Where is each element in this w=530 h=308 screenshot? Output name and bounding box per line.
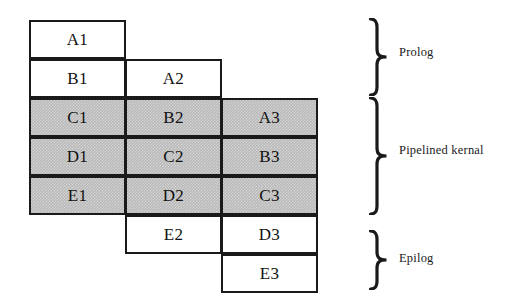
pipeline-cell-a3: A3 xyxy=(221,98,318,137)
brace-prolog-icon xyxy=(368,18,390,96)
pipeline-cell-label: E1 xyxy=(68,187,87,204)
brace-pipelined-kernal-icon xyxy=(368,97,390,215)
pipeline-cell-d1: D1 xyxy=(29,137,126,176)
pipeline-cell-label: B3 xyxy=(259,148,279,165)
pipeline-cell-label: A1 xyxy=(67,31,88,48)
pipeline-cell-e2: E2 xyxy=(125,215,222,254)
pipeline-cell-label: A2 xyxy=(163,70,184,87)
pipeline-cell-label: D2 xyxy=(163,187,184,204)
pipeline-cell-label: A3 xyxy=(259,109,280,126)
pipeline-cell-label: C3 xyxy=(259,187,279,204)
pipeline-cell-d2: D2 xyxy=(125,176,222,215)
pipeline-cell-d3: D3 xyxy=(221,215,318,254)
pipeline-cell-label: C2 xyxy=(163,148,183,165)
pipeline-cell-label: C1 xyxy=(67,109,87,126)
stage-label-prolog: Prolog xyxy=(399,45,434,60)
pipeline-cell-c3: C3 xyxy=(221,176,318,215)
pipeline-cell-b1: B1 xyxy=(29,59,126,98)
pipeline-schedule-diagram: A1B1C1D1E1A2B2C2D2E2A3B3C3D3E3PrologPipe… xyxy=(0,0,530,308)
pipeline-cell-c1: C1 xyxy=(29,98,126,137)
pipeline-cell-label: E3 xyxy=(260,265,279,282)
pipeline-cell-a1: A1 xyxy=(29,20,126,59)
stage-label-pipelined-kernal: Pipelined kernal xyxy=(399,143,484,158)
pipeline-cell-label: D3 xyxy=(259,226,280,243)
pipeline-cell-label: D1 xyxy=(67,148,88,165)
pipeline-cell-e3: E3 xyxy=(221,254,318,293)
brace-epilog-icon xyxy=(368,230,390,290)
pipeline-cell-label: B2 xyxy=(163,109,183,126)
pipeline-cell-label: E2 xyxy=(164,226,183,243)
stage-label-epilog: Epilog xyxy=(399,251,434,266)
pipeline-cell-a2: A2 xyxy=(125,59,222,98)
pipeline-cell-e1: E1 xyxy=(29,176,126,215)
pipeline-cell-c2: C2 xyxy=(125,137,222,176)
pipeline-cell-label: B1 xyxy=(67,70,87,87)
pipeline-cell-b2: B2 xyxy=(125,98,222,137)
pipeline-cell-b3: B3 xyxy=(221,137,318,176)
